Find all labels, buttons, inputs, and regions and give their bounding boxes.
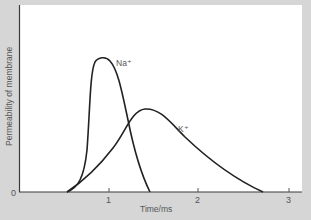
y-axis-label: Permeability of membrane — [4, 47, 14, 146]
x-tick-label-2: 2 — [195, 195, 200, 205]
k-label: K⁺ — [178, 124, 189, 134]
x-tick-label-3: 3 — [286, 195, 291, 205]
na-label: Na⁺ — [116, 58, 132, 68]
permeability-chart: 0 1 2 3 Time/ms Permeability of membrane… — [0, 0, 311, 220]
plot-area — [19, 5, 302, 192]
origin-label: 0 — [11, 188, 16, 198]
x-axis-label: Time/ms — [140, 204, 172, 214]
x-tick-label-1: 1 — [106, 195, 111, 205]
